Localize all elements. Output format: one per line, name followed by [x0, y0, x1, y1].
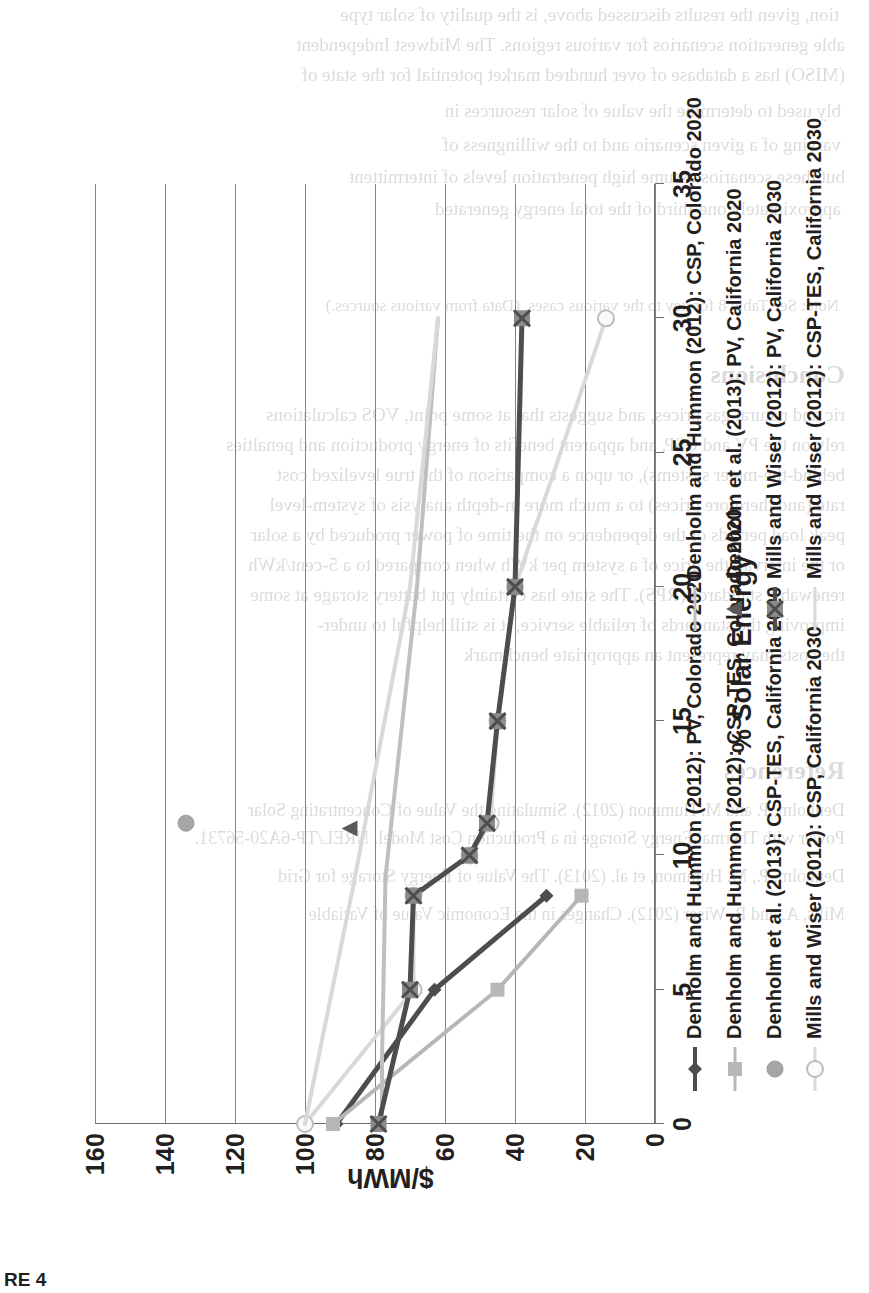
- x-axis-tick: [655, 183, 664, 184]
- series-layer: [95, 184, 655, 1124]
- data-point-triangle: [725, 601, 741, 617]
- legend-item-left-2[interactable]: Denholm et al. (2013): CSP-TES, Californ…: [763, 632, 786, 1092]
- legend-item-right-1[interactable]: Denholm et al. (2013): PV, California 20…: [723, 172, 746, 632]
- legend-marker-icon: [765, 1046, 783, 1092]
- legend-marker-icon: [805, 1046, 823, 1092]
- x-axis-tick-label: 0: [668, 1117, 697, 1131]
- series-0: [329, 888, 553, 1130]
- series-7: [305, 318, 438, 1124]
- data-point-square-x: [489, 713, 505, 729]
- legend-item-label: Denholm and Hummon (2012): CSP, Colorado…: [683, 97, 706, 579]
- y-axis-tick-label: 40: [500, 1133, 529, 1161]
- data-point-square-x: [402, 981, 418, 997]
- x-axis-tick: [655, 988, 664, 989]
- series-5: [341, 820, 357, 836]
- data-point-square-x: [479, 815, 495, 831]
- data-point-circle-open: [806, 1061, 822, 1077]
- series-line: [336, 895, 546, 1123]
- y-axis-tick-label: 120: [220, 1133, 249, 1175]
- x-axis-tick: [655, 317, 664, 318]
- legend-item-label: Denholm et al. (2013): CSP-TES, Californ…: [763, 586, 786, 1038]
- data-point-circle: [178, 815, 194, 831]
- legend-marker-icon: [685, 586, 703, 632]
- series-line: [305, 318, 606, 1124]
- data-point-square: [490, 982, 504, 996]
- legend-marker-icon: [765, 586, 783, 632]
- legend-column-left: Denholm and Hummon (2012): PV, Colorado …: [683, 632, 826, 1092]
- data-point-square-x: [766, 601, 782, 617]
- series-3: [297, 310, 614, 1132]
- data-point-square-x: [370, 1116, 386, 1132]
- data-point-circle: [766, 1061, 782, 1077]
- y-axis-tick-label: 20: [570, 1133, 599, 1161]
- series-1: [326, 888, 589, 1130]
- x-axis-tick: [655, 854, 664, 855]
- series-line: [333, 895, 582, 1123]
- legend-item-left-1[interactable]: Denholm and Hummon (2012): CSP-TES, Colo…: [723, 632, 746, 1092]
- legend-marker-icon: [685, 1046, 703, 1092]
- plot-area: 020406080100120140160 05101520253035: [95, 184, 655, 1124]
- series-2: [178, 815, 194, 831]
- figure-caption: RE 4: [4, 1269, 46, 1291]
- y-axis-title: $/MWh: [270, 1161, 510, 1192]
- legend-item-label: Mills and Wiser (2012): CSP, California …: [803, 626, 826, 1039]
- data-point-square-x: [507, 578, 523, 594]
- y-axis-tick-label: 140: [150, 1133, 179, 1175]
- legend-item-label: Denholm et al. (2013): PV, California 20…: [723, 188, 746, 579]
- x-axis-tick: [655, 585, 664, 586]
- figure-rotated-chart: 020406080100120140160 05101520253035 % S…: [55, 52, 815, 1242]
- y-axis-tick-label: 0: [640, 1133, 669, 1147]
- data-point-square: [727, 1062, 741, 1076]
- legend-item-left-3[interactable]: Mills and Wiser (2012): CSP, California …: [803, 632, 826, 1092]
- x-axis-tick: [655, 1123, 664, 1124]
- legend-item-right-3[interactable]: Mills and Wiser (2012): CSP-TES, Califor…: [803, 172, 826, 632]
- legend-marker-icon: [725, 1046, 743, 1092]
- data-point-square: [574, 888, 588, 902]
- data-point-square-x: [514, 310, 530, 326]
- data-point-triangle: [341, 820, 357, 836]
- chart-canvas: 020406080100120140160 05101520253035 % S…: [55, 52, 815, 1242]
- x-axis-tick: [655, 720, 664, 721]
- data-point-square-x: [405, 887, 421, 903]
- series-line: [305, 318, 438, 1124]
- legend-marker-icon: [725, 586, 743, 632]
- legend-item-label: Mills and Wiser (2012): PV, California 2…: [763, 179, 786, 578]
- y-axis-tick-label: 60: [430, 1133, 459, 1161]
- bleed-line: tion, given the results discussed above,…: [340, 4, 839, 26]
- data-point-circle-open: [598, 310, 614, 326]
- data-point-square-x: [461, 847, 477, 863]
- data-point-square: [326, 1117, 340, 1131]
- data-point-diamond: [687, 1062, 701, 1076]
- x-axis-tick: [655, 451, 664, 452]
- legend-marker-icon: [805, 586, 823, 632]
- legend-item-label: Denholm and Hummon (2012): PV, Colorado …: [683, 570, 706, 1038]
- legend-item-right-2[interactable]: Mills and Wiser (2012): PV, California 2…: [763, 172, 786, 632]
- chart-legend: Denholm and Hummon (2012): PV, Colorado …: [683, 172, 826, 1092]
- legend-item-label: Mills and Wiser (2012): CSP-TES, Califor…: [803, 117, 826, 578]
- legend-item-right-0[interactable]: Denholm and Hummon (2012): CSP, Colorado…: [683, 172, 706, 632]
- y-axis-tick-label: 160: [80, 1133, 109, 1175]
- legend-column-right: Denholm and Hummon (2012): CSP, Colorado…: [683, 172, 826, 632]
- legend-item-left-0[interactable]: Denholm and Hummon (2012): PV, Colorado …: [683, 632, 706, 1092]
- y-axis-tick-label: 80: [360, 1133, 389, 1161]
